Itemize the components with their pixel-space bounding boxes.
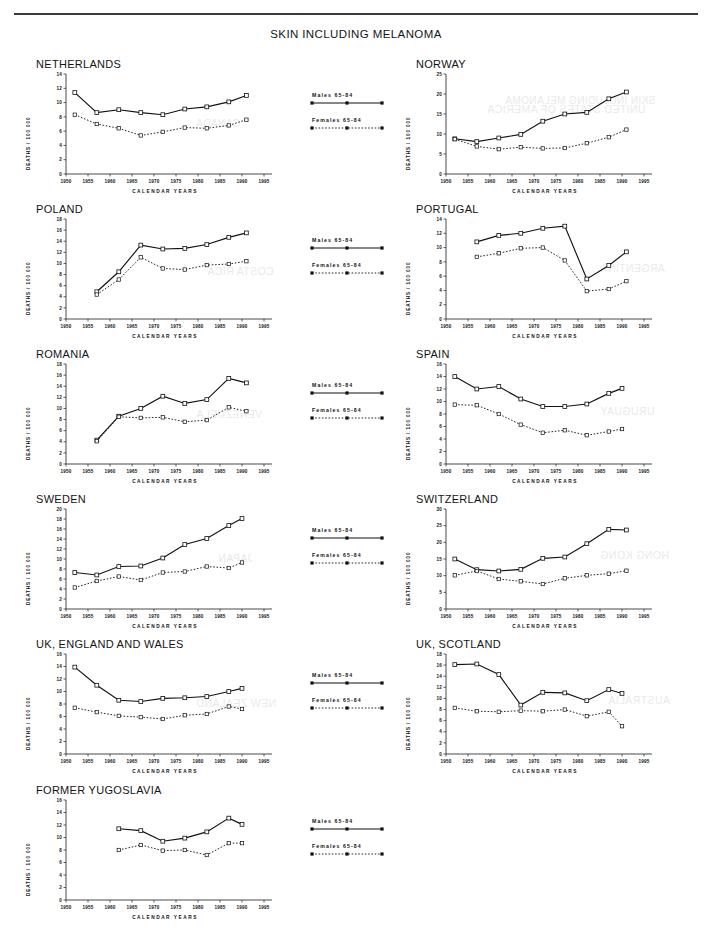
x-tick-label: 1975 bbox=[550, 469, 561, 474]
y-tick-label: 10 bbox=[436, 245, 442, 250]
x-tick-label: 1960 bbox=[484, 469, 495, 474]
x-tick-label: 1985 bbox=[214, 324, 225, 329]
series-line-females bbox=[455, 130, 627, 150]
y-tick-label: 18 bbox=[56, 217, 62, 222]
y-tick-label: 0 bbox=[439, 752, 442, 757]
data-point-marker bbox=[227, 566, 230, 569]
x-tick-label: 1975 bbox=[170, 179, 181, 184]
data-point-marker bbox=[519, 423, 522, 426]
data-point-marker bbox=[205, 853, 208, 856]
data-point-marker bbox=[607, 391, 611, 395]
data-point-marker bbox=[563, 708, 566, 711]
x-tick-label: 1960 bbox=[104, 179, 115, 184]
data-point-marker bbox=[607, 688, 611, 692]
y-tick-label: 14 bbox=[56, 72, 62, 77]
series-line-males bbox=[455, 377, 622, 407]
y-tick-label: 6 bbox=[439, 274, 442, 279]
data-point-marker bbox=[161, 247, 165, 251]
panel-title: SWITZERLAND bbox=[416, 493, 498, 505]
data-point-marker bbox=[117, 714, 120, 717]
data-point-marker bbox=[585, 142, 588, 145]
x-tick-label: 1970 bbox=[528, 469, 539, 474]
data-point-marker bbox=[519, 247, 522, 250]
data-point-marker bbox=[161, 267, 164, 270]
y-tick-label: 0 bbox=[439, 172, 442, 177]
data-point-marker bbox=[227, 262, 230, 265]
y-tick-label: 4 bbox=[59, 727, 62, 732]
x-tick-label: 1970 bbox=[148, 324, 159, 329]
x-tick-label: 1980 bbox=[192, 469, 203, 474]
y-tick-label: 6 bbox=[59, 129, 62, 134]
legend-label-females: Females 65-84 bbox=[310, 843, 384, 849]
plot-area: 0246810121416195019551960196519701975198… bbox=[66, 654, 294, 770]
data-point-marker bbox=[620, 725, 623, 728]
data-point-marker bbox=[585, 111, 589, 115]
data-point-marker bbox=[475, 140, 479, 144]
data-point-marker bbox=[205, 418, 208, 421]
x-tick-label: 1995 bbox=[638, 469, 649, 474]
y-tick-label: 12 bbox=[436, 231, 442, 236]
data-point-marker bbox=[205, 712, 208, 715]
data-point-marker bbox=[475, 240, 479, 244]
y-tick-label: 10 bbox=[56, 406, 62, 411]
data-point-marker bbox=[453, 375, 457, 379]
x-tick-label: 1990 bbox=[236, 324, 247, 329]
x-tick-label: 1975 bbox=[170, 759, 181, 764]
y-tick-label: 12 bbox=[56, 823, 62, 828]
y-tick-label: 16 bbox=[56, 527, 62, 532]
panel-title: SPAIN bbox=[416, 348, 450, 360]
data-point-marker bbox=[497, 673, 501, 677]
y-tick-label: 6 bbox=[59, 428, 62, 433]
y-tick-label: 8 bbox=[59, 567, 62, 572]
series-line-males bbox=[455, 529, 627, 571]
series-line-females bbox=[455, 708, 622, 726]
x-tick-label: 1990 bbox=[616, 324, 627, 329]
y-axis-label: DEATHS / 100 000 bbox=[26, 407, 31, 460]
y-tick-label: 0 bbox=[439, 317, 442, 322]
data-point-marker bbox=[73, 586, 76, 589]
y-tick-label: 6 bbox=[59, 714, 62, 719]
y-tick-label: 15 bbox=[436, 557, 442, 562]
data-point-marker bbox=[519, 231, 523, 235]
x-tick-label: 1980 bbox=[572, 179, 583, 184]
data-point-marker bbox=[240, 517, 244, 521]
data-point-marker bbox=[563, 259, 566, 262]
data-point-marker bbox=[205, 243, 209, 247]
legend-row-males: Males 65-84 bbox=[310, 527, 384, 541]
data-point-marker bbox=[117, 278, 120, 281]
x-tick-label: 1950 bbox=[60, 759, 71, 764]
data-point-marker bbox=[161, 696, 165, 700]
data-point-marker bbox=[139, 407, 143, 411]
y-tick-label: 2 bbox=[439, 302, 442, 307]
x-tick-label: 1970 bbox=[148, 905, 159, 910]
data-point-marker bbox=[245, 410, 248, 413]
panel-title: PORTUGAL bbox=[416, 203, 479, 215]
plot-area: 0246810121419501955196019651970197519801… bbox=[446, 219, 674, 335]
legend-block: Males 65-84Females 65-84 bbox=[310, 818, 384, 868]
data-point-marker bbox=[541, 119, 545, 123]
data-point-marker bbox=[183, 696, 187, 700]
data-point-marker bbox=[161, 130, 164, 133]
y-axis-label: DEATHS / 100 000 bbox=[406, 552, 411, 605]
data-point-marker bbox=[625, 250, 629, 254]
x-tick-label: 1960 bbox=[104, 614, 115, 619]
data-point-marker bbox=[245, 118, 248, 121]
series-line-males bbox=[75, 519, 242, 576]
panel-title: SWEDEN bbox=[36, 493, 86, 505]
y-axis-label: DEATHS / 100 000 bbox=[26, 552, 31, 605]
series-line-females bbox=[75, 563, 242, 588]
data-point-marker bbox=[245, 260, 248, 263]
x-tick-label: 1955 bbox=[82, 179, 93, 184]
x-tick-label: 1995 bbox=[258, 469, 269, 474]
y-tick-label: 8 bbox=[439, 707, 442, 712]
data-point-marker bbox=[139, 416, 142, 419]
plot-area: 0510152025195019551960196519701975198019… bbox=[446, 74, 674, 190]
data-point-marker bbox=[607, 264, 611, 268]
legend-label-females: Females 65-84 bbox=[310, 262, 384, 268]
data-point-marker bbox=[497, 412, 500, 415]
x-tick-label: 1950 bbox=[440, 614, 451, 619]
x-tick-label: 1985 bbox=[214, 759, 225, 764]
y-axis-label: DEATHS / 100 000 bbox=[406, 697, 411, 750]
plot-area: 0246810121419501955196019651970197519801… bbox=[66, 74, 294, 190]
y-tick-label: 4 bbox=[439, 729, 442, 734]
